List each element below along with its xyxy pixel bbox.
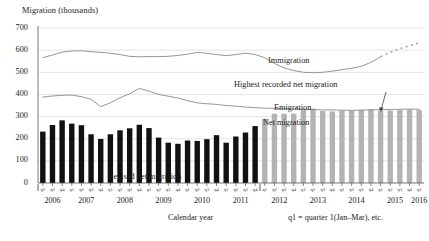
quarter-tick-label: q2 <box>41 187 46 192</box>
year-tick-label: 2012 <box>271 196 287 205</box>
bar-net-migration <box>407 109 412 183</box>
quarter-tick-label: q1 <box>108 187 113 192</box>
quarter-tick-label: q1 <box>340 187 345 192</box>
year-tick-label: 2016 <box>411 196 427 205</box>
y-axis-tick-label: 500 <box>2 67 28 76</box>
year-tick-label: 2008 <box>117 196 133 205</box>
quarter-tick-label: q4 <box>253 187 258 192</box>
bar-net-migration <box>195 141 200 183</box>
y-axis-tick-label: 400 <box>2 89 28 98</box>
quarter-tick-label: q1 <box>69 187 74 192</box>
quarter-tick-label: q2 <box>195 187 200 192</box>
bar-net-migration <box>59 120 64 183</box>
quarter-tick-label: q2 <box>118 187 123 192</box>
quarter-tick-label: q3 <box>282 187 287 192</box>
line-immigration <box>43 51 381 73</box>
quarter-tick-label: q4 <box>137 187 142 192</box>
quarter-tick-label: q3 <box>243 187 248 192</box>
year-tick-label: 2010 <box>194 196 210 205</box>
bar-net-migration <box>320 111 325 183</box>
y-axis-tick-label: 200 <box>2 133 28 142</box>
quarter-tick-label: q1 <box>147 187 152 192</box>
chart-footnote: q1 = quarter 1(Jan–Mar), etc. <box>288 213 383 222</box>
quarter-tick-label: q2 <box>272 187 277 192</box>
y-axis-tick-label: 700 <box>2 23 28 32</box>
bar-net-migration <box>88 134 93 183</box>
bar-net-migration <box>40 132 45 183</box>
quarter-tick-label: q3 <box>127 187 132 192</box>
quarter-tick-label: q4 <box>330 187 335 192</box>
quarter-tick-label: q3 <box>89 187 94 192</box>
quarter-tick-label: q4 <box>407 187 412 192</box>
chart-plot-area <box>0 0 429 241</box>
quarter-tick-label: q2 <box>311 187 316 192</box>
bar-net-migration <box>185 140 190 183</box>
bar-net-migration <box>223 143 228 183</box>
year-tick-label: 2006 <box>44 196 60 205</box>
quarter-tick-label: q2 <box>349 187 354 192</box>
bar-net-migration <box>397 110 402 183</box>
bar-net-migration <box>98 139 103 183</box>
bar-net-migration <box>339 111 344 183</box>
bar-net-migration <box>69 124 74 183</box>
quarter-tick-label: q4 <box>176 187 181 192</box>
year-tick-label: 2007 <box>78 196 94 205</box>
quarter-tick-label: q3 <box>166 187 171 192</box>
migration-chart: Migration (thousands) 010020030040050060… <box>0 0 429 241</box>
quarter-tick-label: q2 <box>234 187 239 192</box>
quarter-tick-label: q1 <box>262 187 267 192</box>
quarter-tick-label: q2 <box>79 187 84 192</box>
bar-net-migration <box>50 125 55 183</box>
bar-net-migration <box>204 139 209 183</box>
year-tick-label: 2009 <box>155 196 171 205</box>
bar-net-migration <box>252 126 257 183</box>
quarter-tick-label: q3 <box>398 187 403 192</box>
bar-net-migration <box>378 111 383 183</box>
quarter-tick-label: q3 <box>205 187 210 192</box>
quarter-tick-label: q1 <box>417 187 422 192</box>
y-axis-tick-label: 100 <box>2 155 28 164</box>
year-tick-label: 2013 <box>310 196 326 205</box>
quarter-tick-label: q1 <box>185 187 190 192</box>
bar-net-migration <box>330 111 335 183</box>
bar-net-migration <box>349 111 354 183</box>
annotation-net-migration: Net migration <box>263 118 309 127</box>
annotation-emigration: Emigration <box>274 103 311 112</box>
bar-net-migration <box>368 109 373 183</box>
bar-net-migration <box>310 109 315 183</box>
quarter-tick-label: q3 <box>320 187 325 192</box>
quarter-tick-label: q2 <box>388 187 393 192</box>
bar-net-migration <box>233 137 238 184</box>
bar-net-migration <box>243 133 248 183</box>
bar-net-migration <box>262 119 267 183</box>
year-tick-label: 2011 <box>233 196 249 205</box>
y-axis-tick-label: 600 <box>2 45 28 54</box>
year-tick-label: 2015 <box>387 196 403 205</box>
annotation-highest-recorded-net-migration: Highest recorded net migration <box>234 80 337 89</box>
y-axis-tick-label: 300 <box>2 111 28 120</box>
bar-net-migration <box>416 110 421 183</box>
quarter-tick-label: q1 <box>301 187 306 192</box>
quarter-tick-label: q1 <box>378 187 383 192</box>
bar-net-migration <box>388 111 393 183</box>
quarter-tick-label: q4 <box>369 187 374 192</box>
quarter-tick-label: q4 <box>98 187 103 192</box>
y-axis-tick-label: 0 <box>2 178 28 187</box>
quarter-tick-label: q3 <box>359 187 364 192</box>
bar-net-migration <box>79 125 84 183</box>
bar-net-migration <box>214 135 219 183</box>
x-axis-caption: Calendar year <box>168 213 213 222</box>
annotation-immigration: Immigration <box>268 56 309 65</box>
quarter-tick-label: q2 <box>156 187 161 192</box>
quarter-tick-label: q3 <box>50 187 55 192</box>
quarter-tick-label: q4 <box>60 187 65 192</box>
quarter-tick-label: q4 <box>214 187 219 192</box>
quarter-tick-label: q1 <box>224 187 229 192</box>
year-tick-label: 2014 <box>348 196 364 205</box>
line-emigration <box>43 88 419 110</box>
annotation-revised-net-migration: Revised net migration <box>108 172 181 181</box>
bar-net-migration <box>359 110 364 183</box>
quarter-tick-label: q4 <box>291 187 296 192</box>
